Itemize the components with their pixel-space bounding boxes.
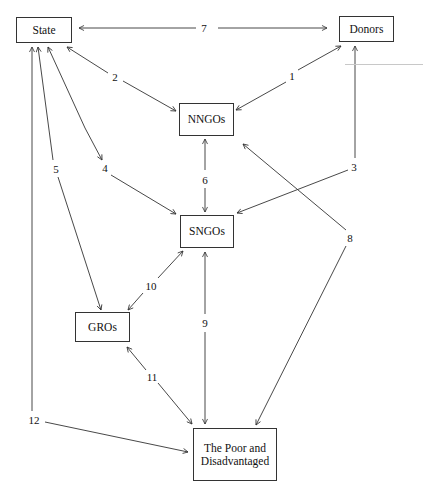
edge-label-12: 12	[27, 414, 42, 426]
node-state: State	[16, 17, 72, 43]
node-sngos: SNGOs	[180, 215, 234, 248]
edge-label-11: 11	[145, 371, 160, 383]
node-donors: Donors	[339, 16, 394, 42]
edge-label-6: 6	[200, 174, 210, 186]
edge-3-b	[237, 170, 348, 213]
edge-label-5: 5	[51, 163, 61, 175]
edge-4-c	[48, 47, 85, 128]
edge-12-b	[45, 422, 188, 452]
edge-label-3: 3	[349, 161, 359, 173]
relationship-diagram	[0, 0, 423, 499]
edge-11-b	[158, 383, 192, 424]
edge-11-a	[127, 347, 146, 370]
edge-label-7: 7	[199, 22, 209, 34]
edge-2-b	[123, 81, 176, 111]
edge-1-a	[298, 46, 341, 70]
edge-label-2: 2	[110, 71, 120, 83]
edge-10-b	[128, 293, 143, 310]
edge-2-a	[67, 47, 108, 73]
edge-1-b	[236, 82, 286, 110]
edge-5-a	[38, 47, 53, 160]
edge-4-b	[111, 175, 176, 214]
edge-label-4: 4	[100, 162, 110, 174]
edge-label-9: 9	[200, 317, 210, 329]
edge-8-b	[256, 246, 346, 425]
edge-10-a	[158, 251, 183, 278]
node-poor-and-disadvantaged: The Poor and Disadvantaged	[193, 428, 277, 481]
edge-label-1: 1	[287, 70, 297, 82]
edge-4-a	[85, 128, 102, 160]
edge-label-8: 8	[345, 232, 355, 244]
faint-horizontal-line	[345, 64, 423, 65]
edge-label-10: 10	[144, 280, 159, 292]
node-nngos: NNGOs	[179, 103, 234, 136]
node-gros: GROs	[75, 312, 130, 342]
edge-8-a	[243, 144, 346, 230]
edge-5-b	[58, 177, 101, 310]
